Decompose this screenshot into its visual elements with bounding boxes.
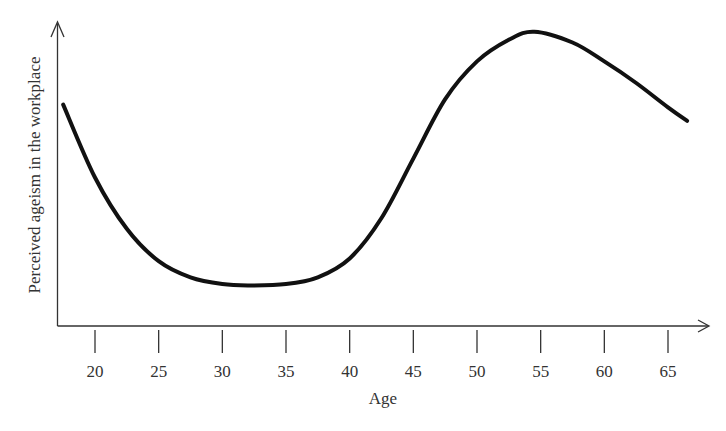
x-tick-label: 50 xyxy=(469,362,486,381)
x-tick-labels: 20253035404550556065 xyxy=(87,362,677,381)
x-tick-label: 40 xyxy=(341,362,358,381)
x-ticks xyxy=(95,330,668,353)
data-line xyxy=(63,32,687,286)
x-tick-label: 35 xyxy=(278,362,295,381)
x-tick-label: 65 xyxy=(660,362,677,381)
x-tick-label: 30 xyxy=(214,362,231,381)
x-tick-label: 45 xyxy=(405,362,422,381)
line-chart: 20253035404550556065 Age Perceived ageis… xyxy=(0,0,726,431)
x-tick-label: 60 xyxy=(596,362,613,381)
y-axis-label: Perceived ageism in the workplace xyxy=(25,57,44,294)
x-axis-label: Age xyxy=(369,389,397,408)
x-tick-label: 55 xyxy=(532,362,549,381)
x-tick-label: 25 xyxy=(150,362,167,381)
x-tick-label: 20 xyxy=(87,362,104,381)
